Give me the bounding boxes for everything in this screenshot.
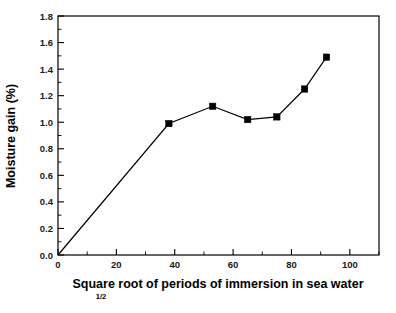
y-tick-label: 1.2	[40, 90, 53, 101]
data-series-markers	[166, 54, 330, 127]
y-tick-label: 0.6	[40, 170, 53, 181]
line-chart: 020406080100 0.00.20.40.60.81.01.21.41.6…	[0, 0, 396, 313]
y-tick-label: 0.2	[40, 223, 53, 234]
x-axis-tick-labels: 020406080100	[55, 259, 357, 270]
x-tick-label: 40	[169, 259, 180, 270]
y-axis-ticks	[58, 16, 64, 255]
x-tick-label: 60	[228, 259, 239, 270]
x-tick-label: 100	[342, 259, 358, 270]
data-point-marker	[274, 114, 280, 120]
chart-figure: 020406080100 0.00.20.40.60.81.01.21.41.6…	[0, 0, 396, 313]
data-point-marker	[323, 54, 329, 60]
y-tick-label: 0.8	[40, 143, 53, 154]
y-tick-label: 1.6	[40, 37, 53, 48]
data-series-line	[58, 57, 326, 255]
x-tick-label: 0	[55, 259, 60, 270]
y-axis-tick-labels: 0.00.20.40.60.81.01.21.41.61.8	[40, 11, 54, 261]
y-tick-label: 1.8	[40, 11, 53, 22]
x-tick-label: 20	[111, 259, 122, 270]
y-tick-label: 1.4	[40, 64, 54, 75]
y-axis-title: Moisture gain (%)	[4, 84, 18, 188]
x-axis-ticks	[58, 249, 379, 255]
y-tick-label: 0.4	[40, 196, 54, 207]
plot-frame	[58, 16, 379, 255]
data-point-marker	[244, 116, 250, 122]
data-point-marker	[166, 120, 172, 126]
x-axis-title: Square root of periods of immersion in s…	[72, 277, 363, 291]
data-point-marker	[301, 86, 307, 92]
data-point-marker	[209, 103, 215, 109]
y-tick-label: 1.0	[40, 117, 53, 128]
y-tick-label: 0.0	[40, 250, 53, 261]
x-axis-title-superscript: 1/2	[96, 292, 106, 301]
x-tick-label: 80	[286, 259, 297, 270]
